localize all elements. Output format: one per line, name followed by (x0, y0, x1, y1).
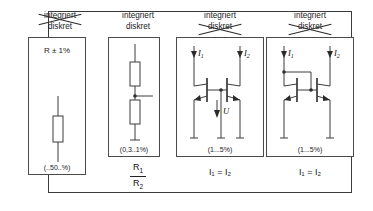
component-box-3: U I1 I2 (1...5%) (176, 37, 264, 157)
tolerance-value-3: (1...5%) (177, 146, 263, 153)
voltage-label-U: U (223, 106, 230, 116)
column-resistor-ratio: integriert diskret (0,3..1%) R1 R2 (96, 11, 180, 193)
formula-resistor-ratio: R1 R2 (96, 163, 180, 190)
single-resistor-symbol (29, 38, 87, 176)
column-2-header: integriert diskret (96, 11, 180, 34)
column-discrete-resistor: integriert diskret R ± 1% (..50..%) (18, 11, 102, 193)
formula-numerator: R1 (130, 163, 146, 175)
label-integriert: integriert (262, 11, 358, 22)
current-mirror-diode-connected-symbol: I1 I2 (267, 38, 355, 158)
label-integriert: integriert (18, 11, 102, 22)
current-label-I1: I1 (197, 48, 204, 59)
current-label-I2: I2 (243, 48, 250, 59)
label-diskret: diskret (18, 22, 102, 33)
column-4-header: integriert diskret (262, 11, 358, 34)
component-box-2: (0,3..1%) (108, 37, 160, 157)
label-diskret: diskret (262, 22, 358, 33)
column-1-header: integriert diskret (18, 11, 102, 34)
column-current-mirror-diode: integriert diskret (262, 11, 358, 193)
current-mirror-open-base-symbol: U I1 I2 (177, 38, 265, 158)
component-box-1: R ± 1% (..50..%) (28, 37, 86, 175)
current-label-I1: I1 (287, 48, 294, 59)
component-box-4: I1 I2 (1...5%) (266, 37, 354, 157)
tolerance-value-1: (..50..%) (29, 164, 85, 171)
tolerance-value-4: (1...5%) (267, 146, 353, 153)
formula-denominator: R2 (130, 179, 146, 191)
current-label-I2: I2 (333, 48, 340, 59)
formula-current-equality-4: I₁ = I₂ (262, 167, 358, 177)
label-integriert: integriert (96, 11, 180, 22)
label-diskret: diskret (96, 22, 180, 33)
formula-current-equality-3: I₁ = I₂ (172, 167, 268, 177)
figure-root: integriert diskret R ± 1% (..50..%) inte… (0, 0, 373, 211)
resistor-divider-symbol (109, 38, 161, 158)
label-integriert: integriert (172, 11, 268, 22)
tolerance-value-2: (0,3..1%) (109, 146, 159, 153)
column-3-header: integriert diskret (172, 11, 268, 34)
label-diskret: diskret (172, 22, 268, 33)
column-current-mirror-open: integriert diskret (172, 11, 268, 193)
